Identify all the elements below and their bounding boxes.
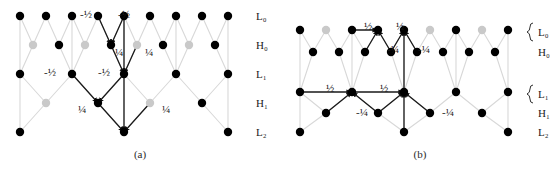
- active-edge-predict-h1: [98, 74, 124, 103]
- node-l0-5: [146, 12, 154, 20]
- node-h0-0: [309, 48, 317, 56]
- inactive-edge-l1-h1: [150, 74, 176, 103]
- inactive-edge-h0-l1: [339, 52, 352, 92]
- inactive-edge-h1-l2: [20, 103, 46, 132]
- edge-coefficient-L2-update-left: ¼: [78, 103, 86, 115]
- edge-coefficient-L1-update-right: ½: [380, 82, 388, 94]
- node-h1-2: [426, 109, 434, 117]
- node-l0-7: [478, 26, 486, 34]
- inactive-edge-h0-l1: [443, 52, 456, 92]
- node-h0-7: [491, 48, 499, 56]
- active-edge-update-l2: [98, 103, 124, 132]
- active-edge-predict-h1: [72, 74, 98, 103]
- edge-coefficient-L0-update-right: ½: [396, 20, 404, 32]
- node-h1-1: [94, 99, 102, 107]
- inactive-edge-l0-h0: [189, 16, 202, 45]
- inactive-edge-l1-h1: [124, 74, 150, 103]
- node-l1-0: [296, 88, 304, 96]
- node-l0-3: [94, 12, 102, 20]
- inactive-edge-l0-h0: [46, 16, 59, 45]
- node-l1-2: [400, 88, 408, 96]
- node-l2-1: [400, 128, 408, 136]
- node-h0-6: [465, 48, 473, 56]
- inactive-edge-h0-l1: [176, 45, 189, 74]
- inactive-edge-h0-l1: [456, 52, 469, 92]
- node-l0-3: [374, 26, 382, 34]
- node-h0-1: [55, 41, 63, 49]
- inactive-edge-l0-h0: [215, 16, 228, 45]
- active-edge-update-l1: [326, 92, 352, 113]
- inactive-edge-h0-l1: [72, 45, 85, 74]
- caption-panel-b: (b): [380, 148, 460, 160]
- node-l1-0: [16, 70, 24, 78]
- inactive-edge-l0-h0: [72, 16, 85, 45]
- row-label-L2: L₂: [538, 126, 549, 138]
- active-edge-update-l1b: [404, 92, 430, 113]
- node-l1-3: [452, 88, 460, 96]
- inactive-edge-l1-h1: [46, 74, 72, 103]
- active-edge-predict-h0: [98, 16, 111, 45]
- node-l0-2: [68, 12, 76, 20]
- inactive-edge-l0-h0: [163, 16, 176, 45]
- node-h0-5: [159, 41, 167, 49]
- inactive-edge-l0-h0: [20, 16, 33, 45]
- edge-coefficient-L0-update-left: ½: [364, 20, 372, 32]
- node-h1-0: [322, 109, 330, 117]
- row-label-L0: L₀: [538, 26, 549, 38]
- node-l2-0: [296, 128, 304, 136]
- inactive-edge-l1-h1: [456, 92, 482, 113]
- edge-coefficient-L2-update-right: ¼: [162, 103, 170, 115]
- node-h0-2: [361, 48, 369, 56]
- node-l0-5: [426, 26, 434, 34]
- node-l1-4: [504, 88, 512, 96]
- active-edge-predict-h0: [111, 16, 124, 45]
- inactive-edge-l0-h0: [124, 16, 137, 45]
- inactive-edge-h0-l1: [59, 45, 72, 74]
- edge-coefficient-H1-predict-left: -¼: [356, 106, 368, 118]
- node-l0-0: [296, 26, 304, 34]
- row-label-L2: L₂: [256, 126, 267, 138]
- node-l0-1: [322, 26, 330, 34]
- node-l1-1: [68, 70, 76, 78]
- lattice-diagram-svg: -½-½¼¼-½-½¼¼L₀H₀L₁H₁L₂½½-¼-¼½½-¼-¼L₀H₀L₁…: [0, 0, 560, 170]
- row-brace-L0: [527, 23, 533, 41]
- node-l2-2: [504, 128, 512, 136]
- edge-coefficient-H0-predict-left: -¼: [387, 43, 399, 55]
- edge-coefficient-H0-predict-right: -¼: [418, 43, 430, 55]
- inactive-edge-l0-h0: [59, 16, 72, 45]
- node-h0-0: [29, 41, 37, 49]
- row-label-H0: H₀: [256, 39, 268, 51]
- node-l0-6: [172, 12, 180, 20]
- edge-coefficient-L1-update-left: ¼: [115, 46, 123, 58]
- node-l2-2: [224, 128, 232, 136]
- node-h0-6: [185, 41, 193, 49]
- node-l2-0: [16, 128, 24, 136]
- node-h0-2: [81, 41, 89, 49]
- node-l0-8: [504, 26, 512, 34]
- node-l1-2: [120, 70, 128, 78]
- node-l1-4: [224, 70, 232, 78]
- inactive-edge-l1-h1: [300, 92, 326, 113]
- edge-coefficient-L1-update-right: ¼: [145, 46, 153, 58]
- node-h0-5: [439, 48, 447, 56]
- inactive-edge-h0-l1: [352, 52, 365, 92]
- node-l0-1: [42, 12, 50, 20]
- inactive-edge-h1-l2: [378, 113, 404, 132]
- inactive-edge-l0-h0: [176, 16, 189, 45]
- inactive-edge-h0-l1: [300, 52, 313, 92]
- row-label-L1: L₁: [256, 68, 267, 80]
- row-label-H1: H₁: [256, 97, 268, 109]
- row-label-H1: H₁: [538, 107, 550, 119]
- inactive-edge-h0-l1: [20, 45, 33, 74]
- caption-panel-a: (a): [100, 148, 180, 160]
- inactive-edge-h0-l1: [495, 52, 508, 92]
- node-h0-1: [335, 48, 343, 56]
- node-l0-0: [16, 12, 24, 20]
- inactive-edge-l0-h0: [33, 16, 46, 45]
- node-l0-8: [224, 12, 232, 20]
- node-l2-1: [120, 128, 128, 136]
- node-h1-1: [374, 109, 382, 117]
- node-h1-0: [42, 99, 50, 107]
- inactive-edge-l1-h1: [176, 74, 202, 103]
- node-l0-7: [198, 12, 206, 20]
